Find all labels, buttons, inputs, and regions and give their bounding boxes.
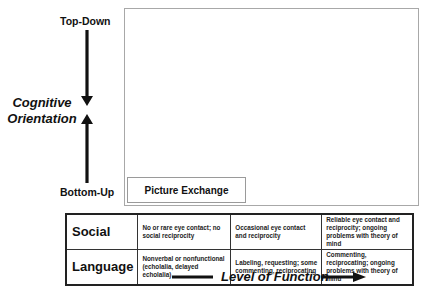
- vertical-arrows-icon: [78, 28, 96, 186]
- level-of-function-title: Level of Function: [221, 269, 329, 284]
- row-header-language: Language: [66, 250, 138, 286]
- picture-exchange-box: Picture Exchange: [127, 177, 246, 203]
- table-cell: Reliable eye contact and reciprocity; on…: [322, 214, 413, 250]
- horizontal-line-left-icon: [172, 274, 214, 280]
- table-row-social: Social No or rare eye contact; no social…: [66, 214, 413, 250]
- table-cell: Occasional eye contact and reciprocity: [231, 214, 322, 250]
- right-arrow-icon: [321, 271, 367, 283]
- axis-title-line2: Orientation: [6, 111, 78, 127]
- axis-title-line1: Cognitive: [6, 95, 78, 111]
- table-cell: No or rare eye contact; no social recipr…: [138, 214, 231, 250]
- picture-exchange-label: Picture Exchange: [145, 185, 229, 196]
- top-down-label: Top-Down: [60, 15, 111, 27]
- row-header-social: Social: [66, 214, 138, 250]
- cognitive-orientation-title: Cognitive Orientation: [6, 95, 78, 127]
- bottom-up-label: Bottom-Up: [60, 186, 114, 198]
